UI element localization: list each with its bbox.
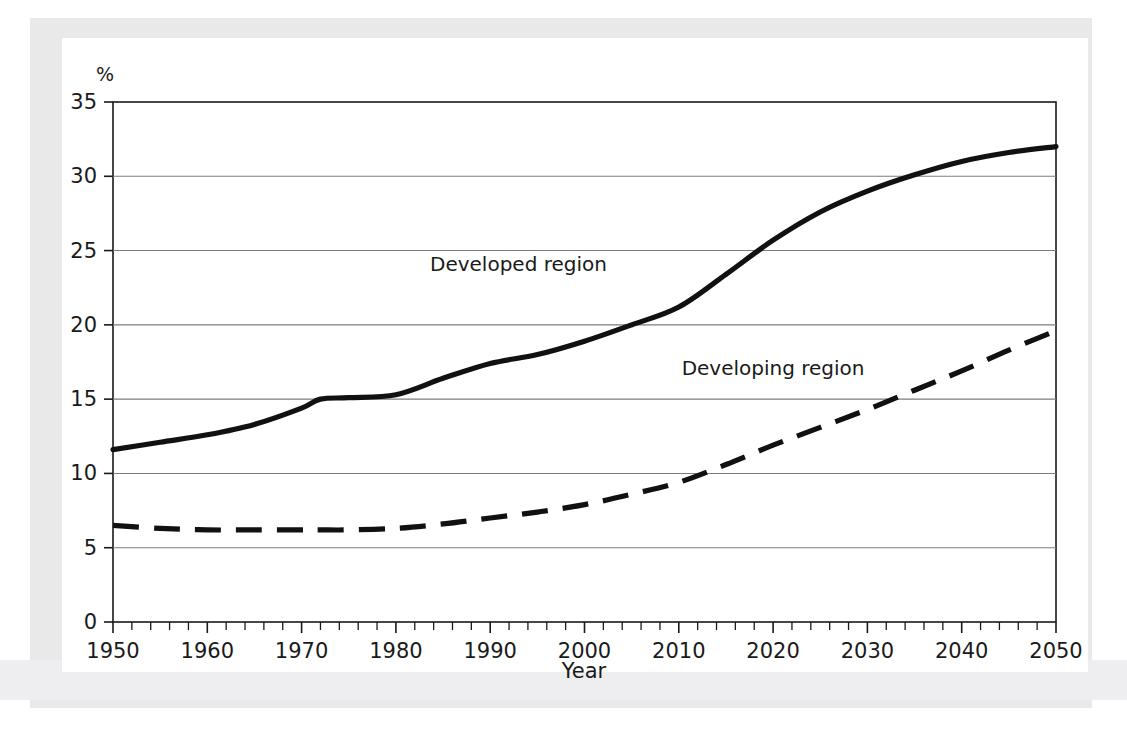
- series-label-developing-region: Developing region: [682, 356, 865, 380]
- y-axis-ticks: 05101520253035: [70, 90, 113, 634]
- x-tick-label-2010: 2010: [652, 639, 705, 663]
- x-tick-label-2040: 2040: [935, 639, 988, 663]
- y-tick-label-20: 20: [70, 313, 97, 337]
- x-tick-label-1950: 1950: [86, 639, 139, 663]
- line-chart: 05101520253035 1950196019701980199020002…: [0, 0, 1127, 749]
- series-label-developed-region: Developed region: [430, 252, 607, 276]
- x-tick-label-1980: 1980: [369, 639, 422, 663]
- y-tick-label-5: 5: [84, 536, 97, 560]
- figure-page: 05101520253035 1950196019701980199020002…: [0, 0, 1127, 749]
- x-tick-label-1960: 1960: [181, 639, 234, 663]
- x-tick-label-2020: 2020: [746, 639, 799, 663]
- x-tick-label-1970: 1970: [275, 639, 328, 663]
- y-axis-unit-label: %: [96, 63, 114, 85]
- y-tick-label-25: 25: [70, 239, 97, 263]
- y-tick-label-0: 0: [84, 610, 97, 634]
- x-axis-title: Year: [561, 659, 607, 683]
- plot-frame: [113, 102, 1056, 622]
- x-tick-label-2030: 2030: [841, 639, 894, 663]
- y-tick-label-30: 30: [70, 164, 97, 188]
- y-tick-label-10: 10: [70, 461, 97, 485]
- x-tick-label-2050: 2050: [1029, 639, 1082, 663]
- y-tick-label-35: 35: [70, 90, 97, 114]
- x-axis-minor-ticks: [113, 622, 1056, 633]
- y-tick-label-15: 15: [70, 387, 97, 411]
- x-tick-label-1990: 1990: [463, 639, 516, 663]
